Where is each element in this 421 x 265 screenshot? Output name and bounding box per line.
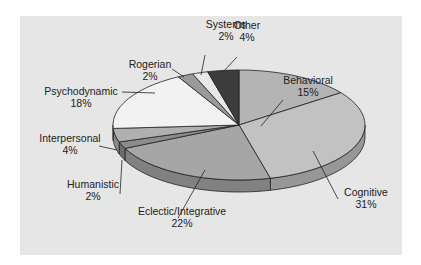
label-value: 4% <box>234 31 260 43</box>
leader-line-humanistic <box>120 160 122 194</box>
label-behavioral: Behavioral15% <box>283 74 333 98</box>
label-name: Rogerian <box>129 58 172 70</box>
label-name: Behavioral <box>283 74 333 86</box>
label-value: 4% <box>39 144 100 156</box>
label-name: Other <box>234 19 260 31</box>
label-eclectic-integrative: Eclectic/Integrative22% <box>138 205 226 229</box>
label-rogerian: Rogerian2% <box>129 58 172 82</box>
label-value: 18% <box>44 97 118 109</box>
leader-line-interpersonal <box>99 146 117 150</box>
label-interpersonal: Interpersonal4% <box>39 132 100 156</box>
label-value: 2% <box>67 190 119 202</box>
label-name: Eclectic/Integrative <box>138 205 226 217</box>
label-cognitive: Cognitive31% <box>344 186 388 210</box>
label-value: 31% <box>344 198 388 210</box>
label-name: Psychodynamic <box>44 85 118 97</box>
leader-line-rogerian <box>172 69 184 77</box>
label-humanistic: Humanistic2% <box>67 178 119 202</box>
label-value: 22% <box>138 217 226 229</box>
label-name: Interpersonal <box>39 132 100 144</box>
label-psychodynamic: Psychodynamic18% <box>44 85 118 109</box>
label-other: Other4% <box>234 19 260 43</box>
label-value: 2% <box>129 70 172 82</box>
label-name: Humanistic <box>67 178 119 190</box>
label-value: 15% <box>283 86 333 98</box>
label-name: Cognitive <box>344 186 388 198</box>
